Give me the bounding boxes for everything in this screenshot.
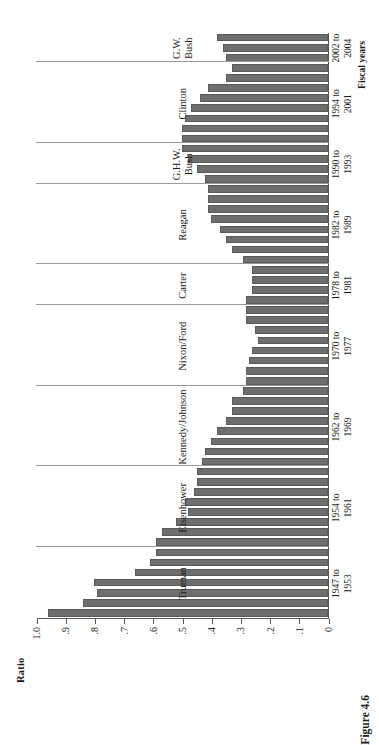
bar bbox=[249, 356, 328, 364]
administration-separator bbox=[36, 142, 329, 143]
y-tick-label: .2 bbox=[263, 627, 276, 635]
fiscal-year-range-label: 1978 to 1981 bbox=[331, 265, 354, 305]
bar bbox=[252, 346, 328, 354]
fiscal-year-range-label: 1990 to 1993 bbox=[331, 144, 354, 184]
bar-cell bbox=[37, 72, 328, 82]
administration-separator bbox=[36, 61, 329, 62]
bar bbox=[225, 53, 327, 61]
fiscal-year-range-label: 1947 to 1953 bbox=[331, 548, 354, 619]
bar bbox=[243, 387, 328, 395]
bar-cell bbox=[37, 194, 328, 204]
fiscal-year-range-label: 1994 to 2001 bbox=[331, 63, 354, 144]
bar bbox=[246, 376, 328, 384]
y-tick-mark bbox=[124, 619, 125, 624]
bar bbox=[231, 245, 327, 253]
bar bbox=[182, 124, 328, 132]
bar bbox=[211, 437, 328, 445]
y-tick-label: .4 bbox=[205, 627, 218, 635]
bar bbox=[246, 306, 328, 314]
bar-cell bbox=[37, 517, 328, 527]
bar-cell bbox=[37, 385, 328, 395]
bar-cell bbox=[37, 406, 328, 416]
bar-cell bbox=[37, 42, 328, 52]
bar-cell bbox=[37, 32, 328, 42]
bar-cell bbox=[37, 153, 328, 163]
bar bbox=[182, 134, 328, 142]
bar bbox=[246, 296, 328, 304]
y-axis-title: Ratio bbox=[15, 657, 26, 683]
bar bbox=[190, 104, 327, 112]
bar-cell bbox=[37, 355, 328, 365]
y-tick-mark bbox=[182, 619, 183, 624]
bar-cell bbox=[37, 496, 328, 506]
y-tick-label: .1 bbox=[292, 627, 305, 635]
bar-cell bbox=[37, 244, 328, 254]
bar bbox=[208, 185, 328, 193]
bar-cell bbox=[37, 83, 328, 93]
bar-cell bbox=[37, 446, 328, 456]
bar-cell bbox=[37, 163, 328, 173]
bar bbox=[231, 397, 327, 405]
bar bbox=[231, 407, 327, 415]
y-tick-label: 1.0 bbox=[30, 627, 43, 640]
bar-cell bbox=[37, 607, 328, 617]
bar bbox=[205, 447, 328, 455]
bar-cell bbox=[37, 486, 328, 496]
y-tick-label: .3 bbox=[234, 627, 247, 635]
bar bbox=[97, 588, 328, 596]
bar-cell bbox=[37, 62, 328, 72]
bar bbox=[155, 548, 327, 556]
bar bbox=[47, 609, 327, 617]
bar-cell bbox=[37, 436, 328, 446]
bar-cell bbox=[37, 103, 328, 113]
bar bbox=[211, 215, 328, 223]
bar-cell bbox=[37, 305, 328, 315]
y-tick-label: .6 bbox=[146, 627, 159, 635]
bar-cell bbox=[37, 567, 328, 577]
bar-cell bbox=[37, 234, 328, 244]
bar bbox=[199, 94, 327, 102]
bar bbox=[231, 64, 327, 72]
bar bbox=[202, 457, 328, 465]
bar bbox=[219, 225, 327, 233]
bar-cell bbox=[37, 416, 328, 426]
administration-separator bbox=[36, 263, 329, 264]
bar-cell bbox=[37, 597, 328, 607]
bar-cell bbox=[37, 395, 328, 405]
bar-cell bbox=[37, 93, 328, 103]
bar-cell bbox=[37, 577, 328, 587]
bar-cell bbox=[37, 506, 328, 516]
bar-cell bbox=[37, 587, 328, 597]
bar-cell bbox=[37, 365, 328, 375]
bar bbox=[184, 498, 327, 506]
bar-cell bbox=[37, 113, 328, 123]
bar-cell bbox=[37, 325, 328, 335]
bar bbox=[182, 144, 328, 152]
y-tick-label: 0 bbox=[322, 627, 335, 632]
bar bbox=[196, 477, 327, 485]
fiscal-year-range-label: 1982 to 1989 bbox=[331, 184, 354, 265]
bar-cell bbox=[37, 315, 328, 325]
bar bbox=[187, 508, 327, 516]
bar-cell bbox=[37, 284, 328, 294]
y-tick-label: .9 bbox=[59, 627, 72, 635]
bar bbox=[246, 316, 328, 324]
bar bbox=[257, 336, 327, 344]
bar bbox=[252, 276, 328, 284]
y-tick-mark bbox=[328, 619, 329, 624]
y-axis-ticks: 1.0.9.8.7.6.5.4.3.2.10 bbox=[37, 619, 329, 681]
bar-cell bbox=[37, 274, 328, 284]
bar bbox=[246, 366, 328, 374]
bar bbox=[208, 205, 328, 213]
x-axis-title: Fiscal years bbox=[357, 33, 367, 97]
x-axis-labels: Fiscal years 1947 to 19531954 to 1961196… bbox=[331, 33, 371, 619]
bar bbox=[149, 558, 327, 566]
bar-cell bbox=[37, 204, 328, 214]
bar bbox=[222, 43, 327, 51]
bar bbox=[252, 286, 328, 294]
fiscal-year-range-label: 1962 to 1969 bbox=[331, 386, 354, 467]
bar bbox=[217, 33, 328, 41]
administration-separator bbox=[36, 182, 329, 183]
y-tick-mark bbox=[270, 619, 271, 624]
